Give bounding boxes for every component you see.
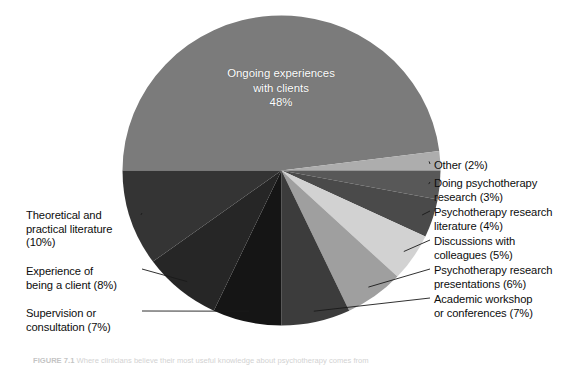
figure-caption-prefix: FIGURE 7.1 bbox=[33, 356, 74, 365]
callout-supervision-or-consultation: Supervision or consultation (7%) bbox=[26, 307, 146, 334]
callout-psychotherapy-research-literature: Psychotherapy research literature (4%) bbox=[434, 206, 584, 233]
callout-theoretical-and-practical-literature: Theoretical and practical literature (10… bbox=[26, 209, 146, 250]
center-label-line-2: with clients bbox=[176, 81, 386, 96]
pie-slice-group bbox=[123, 15, 441, 325]
callout-psychotherapy-research-presentations: Psychotherapy research presentations (6%… bbox=[434, 264, 584, 291]
callout-other: Other (2%) bbox=[434, 159, 584, 173]
callout-doing-psychotherapy-research: Doing psychotherapy research (3%) bbox=[434, 177, 584, 204]
callout-experience-of-being-a-client: Experience of being a client (8%) bbox=[26, 265, 146, 292]
figure-caption-text: Where clinicians believe their most usef… bbox=[76, 356, 368, 365]
center-label-line-1: Ongoing experiences bbox=[176, 66, 386, 81]
callout-discussions-with-colleagues: Discussions with colleagues (5%) bbox=[434, 235, 584, 262]
slice-label-ongoing-experiences: Ongoing experiences with clients 48% bbox=[176, 66, 386, 110]
figure-caption: FIGURE 7.1 Where clinicians believe thei… bbox=[33, 356, 573, 366]
callout-academic-workshop-or-conferences: Academic workshop or conferences (7%) bbox=[434, 293, 584, 320]
center-label-line-3: 48% bbox=[176, 95, 386, 110]
pie-chart-figure: Ongoing experiences with clients 48% Oth… bbox=[0, 0, 584, 366]
